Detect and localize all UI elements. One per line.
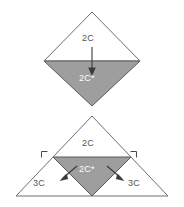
top-diamond-lower-label: 2C*	[79, 73, 95, 83]
inner-triangle-label: 2C*	[79, 164, 95, 174]
geometric-diagram: 2C 2C* 2C 2C* 3C 3C	[0, 0, 184, 207]
left-region-label: 3C	[33, 178, 45, 188]
large-triangle-top-label: 2C	[82, 138, 94, 148]
right-angle-mark-left	[42, 152, 48, 158]
top-diamond-upper-label: 2C	[82, 33, 94, 43]
right-region-label: 3C	[128, 178, 140, 188]
diagram-canvas	[0, 0, 184, 207]
